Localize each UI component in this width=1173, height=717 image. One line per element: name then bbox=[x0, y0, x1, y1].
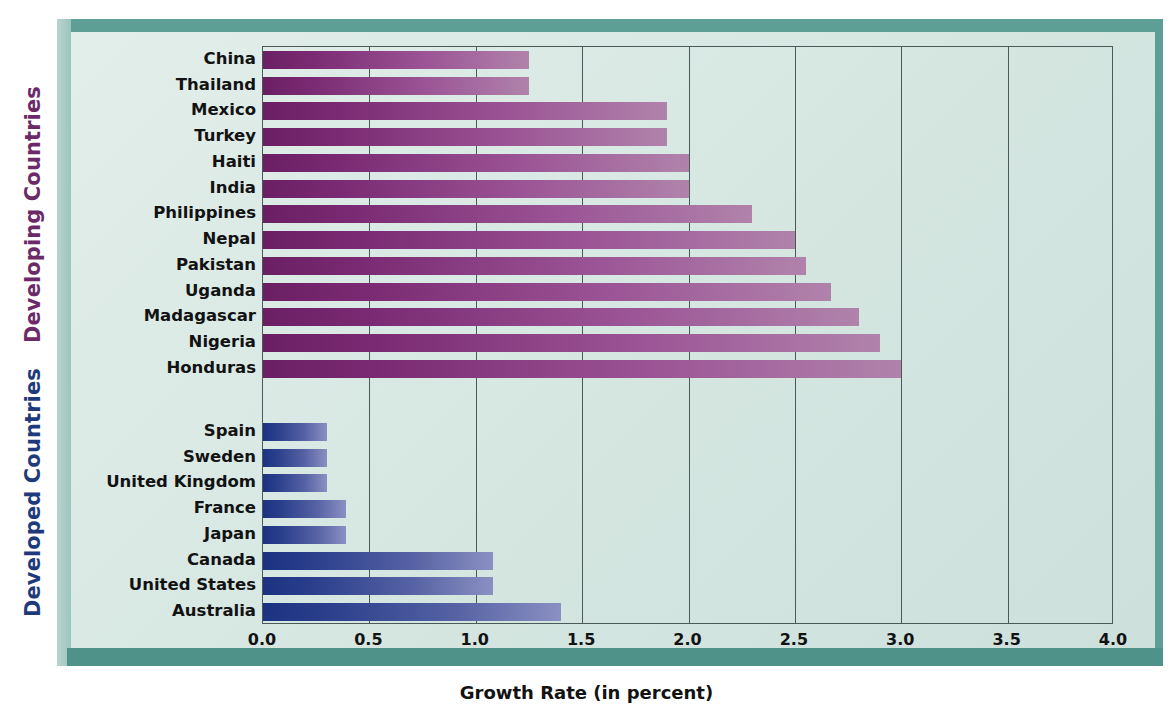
bar-row bbox=[263, 77, 1112, 95]
bar-india bbox=[263, 180, 689, 198]
bar-row bbox=[263, 154, 1112, 172]
bar-rows bbox=[263, 47, 1112, 623]
bar-row bbox=[263, 360, 1112, 378]
x-tick-label: 2.5 bbox=[780, 630, 808, 649]
bar-nepal bbox=[263, 231, 795, 249]
category-label-honduras: Honduras bbox=[6, 358, 256, 377]
bar-madagascar bbox=[263, 308, 859, 326]
category-label-united-states: United States bbox=[6, 575, 256, 594]
bar-turkey bbox=[263, 128, 667, 146]
category-label-france: France bbox=[6, 498, 256, 517]
x-tick-label: 3.5 bbox=[992, 630, 1020, 649]
bar-honduras bbox=[263, 360, 901, 378]
bar-mexico bbox=[263, 102, 667, 120]
x-axis-title: Growth Rate (in percent) bbox=[0, 682, 1173, 703]
bar-row bbox=[263, 283, 1112, 301]
x-tick-label: 2.0 bbox=[673, 630, 701, 649]
x-tick-label: 1.0 bbox=[461, 630, 489, 649]
chart-page: Developing Countries Developed Countries… bbox=[0, 0, 1173, 717]
category-label-column: ChinaThailandMexicoTurkeyHaitiIndiaPhili… bbox=[0, 46, 256, 624]
bar-uganda bbox=[263, 283, 831, 301]
bar-row bbox=[263, 308, 1112, 326]
bar-pakistan bbox=[263, 257, 806, 275]
category-label-nepal: Nepal bbox=[6, 229, 256, 248]
category-label-united-kingdom: United Kingdom bbox=[6, 472, 256, 491]
plot-area bbox=[262, 46, 1113, 624]
bar-row bbox=[263, 205, 1112, 223]
bar-row bbox=[263, 526, 1112, 544]
bar-row bbox=[263, 231, 1112, 249]
bar-sweden bbox=[263, 449, 327, 467]
bar-row bbox=[263, 500, 1112, 518]
bar-row bbox=[263, 128, 1112, 146]
category-label-japan: Japan bbox=[6, 524, 256, 543]
bar-row bbox=[263, 334, 1112, 352]
category-label-pakistan: Pakistan bbox=[6, 255, 256, 274]
category-label-turkey: Turkey bbox=[6, 126, 256, 145]
category-label-china: China bbox=[6, 49, 256, 68]
x-tick-label: 4.0 bbox=[1099, 630, 1127, 649]
category-label-mexico: Mexico bbox=[6, 100, 256, 119]
category-label-india: India bbox=[6, 178, 256, 197]
bar-france bbox=[263, 500, 346, 518]
bar-row bbox=[263, 474, 1112, 492]
x-axis-ticks: 0.00.51.01.52.02.53.03.54.0 bbox=[262, 630, 1113, 654]
category-label-nigeria: Nigeria bbox=[6, 332, 256, 351]
bar-thailand bbox=[263, 77, 529, 95]
bar-china bbox=[263, 51, 529, 69]
bar-haiti bbox=[263, 154, 689, 172]
bar-row bbox=[263, 577, 1112, 595]
category-label-thailand: Thailand bbox=[6, 75, 256, 94]
category-label-canada: Canada bbox=[6, 550, 256, 569]
bar-nigeria bbox=[263, 334, 880, 352]
x-tick-label: 3.0 bbox=[886, 630, 914, 649]
category-label-australia: Australia bbox=[6, 601, 256, 620]
frame-bevel-top bbox=[57, 19, 1163, 32]
bar-row bbox=[263, 552, 1112, 570]
category-label-uganda: Uganda bbox=[6, 281, 256, 300]
x-tick-label: 1.5 bbox=[567, 630, 595, 649]
category-label-madagascar: Madagascar bbox=[6, 306, 256, 325]
category-label-spain: Spain bbox=[6, 421, 256, 440]
bar-row bbox=[263, 102, 1112, 120]
bar-australia bbox=[263, 603, 561, 621]
category-label-haiti: Haiti bbox=[6, 152, 256, 171]
bar-row bbox=[263, 449, 1112, 467]
bar-philippines bbox=[263, 205, 752, 223]
category-label-sweden: Sweden bbox=[6, 447, 256, 466]
bar-row bbox=[263, 423, 1112, 441]
x-tick-label: 0.5 bbox=[354, 630, 382, 649]
bar-row bbox=[263, 603, 1112, 621]
category-label-philippines: Philippines bbox=[6, 203, 256, 222]
bar-canada bbox=[263, 552, 493, 570]
bar-united-kingdom bbox=[263, 474, 327, 492]
bar-spain bbox=[263, 423, 327, 441]
bar-row bbox=[263, 257, 1112, 275]
frame-bevel-right bbox=[1155, 27, 1163, 666]
bar-japan bbox=[263, 526, 346, 544]
bar-row bbox=[263, 51, 1112, 69]
bar-row bbox=[263, 180, 1112, 198]
x-tick-label: 0.0 bbox=[248, 630, 276, 649]
bar-united-states bbox=[263, 577, 493, 595]
